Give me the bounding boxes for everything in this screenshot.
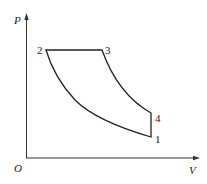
y-axis-arrow-icon	[24, 13, 28, 20]
point-1-label: 1	[155, 133, 161, 145]
x-axis-arrow-icon	[193, 156, 200, 160]
pv-diagram: P V O 2 3 4 1	[0, 0, 207, 184]
origin-label: O	[14, 162, 22, 174]
x-axis-label: V	[189, 164, 197, 176]
point-3-label: 3	[105, 44, 111, 56]
point-2-label: 2	[37, 44, 43, 56]
y-axis-label: P	[13, 14, 21, 26]
cycle-path	[46, 50, 151, 137]
point-4-label: 4	[155, 112, 161, 124]
